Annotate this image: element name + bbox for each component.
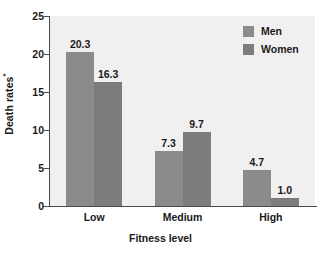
y-axis-title-text: Death rates: [3, 76, 15, 134]
bar-value-label: 16.3: [98, 68, 118, 80]
y-tick-mark: [44, 92, 50, 93]
bar-value-label: 20.3: [70, 38, 90, 50]
x-tick-label-high: High: [259, 211, 282, 223]
bar-low-women: [94, 82, 122, 206]
bar-chart: Death rates* 0510152025 20.316.37.39.74.…: [0, 0, 321, 256]
legend-label-men: Men: [261, 25, 282, 37]
y-tick-label: 0: [22, 200, 44, 212]
bar-medium-women: [183, 132, 211, 206]
bar-high-women: [271, 198, 299, 206]
legend: Men Women: [243, 23, 299, 59]
y-tick-mark: [44, 54, 50, 55]
y-axis-title: Death rates*: [0, 0, 18, 208]
y-tick-label: 25: [22, 10, 44, 22]
x-axis-line: [42, 206, 317, 207]
x-axis-title: Fitness level: [0, 232, 321, 244]
y-tick-label: 15: [22, 86, 44, 98]
legend-swatch-men-icon: [243, 26, 254, 37]
y-tick-label: 5: [22, 162, 44, 174]
x-tick-label-medium: Medium: [163, 211, 203, 223]
bar-value-label: 7.3: [161, 137, 176, 149]
legend-label-women: Women: [261, 43, 299, 55]
y-tick-mark: [44, 168, 50, 169]
bar-value-label: 4.7: [250, 156, 265, 168]
bar-value-label: 9.7: [189, 118, 204, 130]
bar-value-label: 1.0: [278, 184, 293, 196]
legend-item-men: Men: [243, 23, 299, 39]
y-axis-tick-labels: 0510152025: [18, 0, 44, 256]
y-tick-label: 20: [22, 48, 44, 60]
y-tick-mark: [44, 206, 50, 207]
y-axis-footnote-marker: *: [2, 73, 11, 76]
y-tick-mark: [44, 16, 50, 17]
x-tick-label-low: Low: [84, 211, 105, 223]
bar-medium-men: [155, 151, 183, 206]
legend-item-women: Women: [243, 41, 299, 57]
y-tick-mark: [44, 130, 50, 131]
legend-swatch-women-icon: [243, 44, 254, 55]
bar-low-men: [66, 52, 94, 206]
y-tick-label: 10: [22, 124, 44, 136]
bar-high-men: [243, 170, 271, 206]
